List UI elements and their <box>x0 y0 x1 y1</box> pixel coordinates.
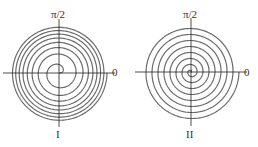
spiral-figure-2 <box>135 18 247 126</box>
fig2-caption: II <box>186 129 193 140</box>
fig1-top-label: π/2 <box>51 9 65 20</box>
fig2-top-label: π/2 <box>183 9 197 20</box>
fig1-right-label: 0 <box>112 67 118 78</box>
fig2-right-label: 0 <box>244 67 250 78</box>
polar-spirals-canvas <box>0 0 258 147</box>
spiral-figure-1 <box>3 19 115 127</box>
fig1-caption: I <box>56 129 60 140</box>
